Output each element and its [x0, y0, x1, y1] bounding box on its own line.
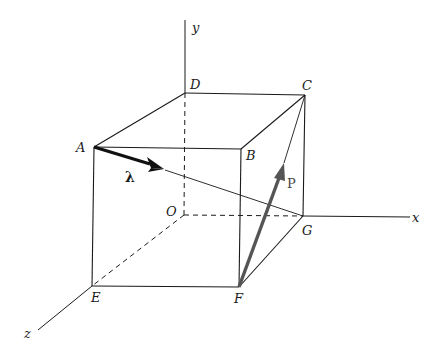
- edge-FG: [239, 216, 303, 287]
- label-lambda: λ: [125, 169, 135, 185]
- label-C: C: [302, 78, 312, 93]
- edge-CG: [303, 95, 305, 216]
- edge-BF: [239, 149, 241, 287]
- label-E: E: [90, 290, 101, 305]
- label-B: B: [245, 148, 256, 163]
- label-z-axis: z: [23, 326, 31, 341]
- hidden-edges: [92, 93, 303, 286]
- edge-BC: [241, 95, 305, 149]
- label-O: O: [166, 204, 177, 219]
- edge-EF: [92, 286, 239, 287]
- x-axis: [303, 216, 410, 217]
- label-y-axis: y: [191, 20, 200, 35]
- edge-AD: [94, 93, 185, 147]
- edge-OG: [184, 215, 303, 216]
- label-D: D: [189, 77, 201, 92]
- label-G: G: [302, 223, 312, 238]
- label-x-axis: x: [412, 210, 420, 225]
- edge-DC: [185, 93, 305, 95]
- label-P: P: [287, 176, 296, 191]
- box-diagram: y x z D C A B O G E F λ P: [0, 0, 443, 352]
- label-A: A: [75, 140, 85, 155]
- diagonal-FC: [284, 95, 305, 163]
- force-P-vector: [239, 163, 285, 287]
- edge-DO: [184, 93, 185, 215]
- label-F: F: [233, 291, 244, 306]
- edge-AB: [94, 147, 241, 149]
- edge-OE: [92, 215, 184, 286]
- z-axis: [38, 286, 92, 330]
- edge-AE: [92, 147, 94, 286]
